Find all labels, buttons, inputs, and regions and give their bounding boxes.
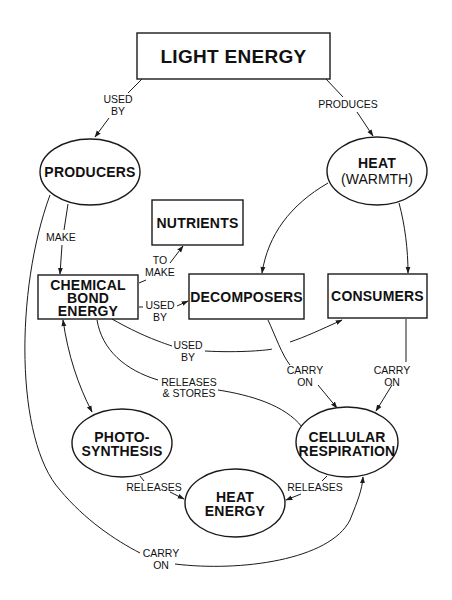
edge-producers-to-cbe bbox=[64, 204, 68, 230]
producers-label: PRODUCERS bbox=[44, 164, 135, 180]
edge-light-to-producers bbox=[128, 79, 142, 93]
node-heat-energy[interactable]: HEAT ENERGY bbox=[185, 469, 285, 537]
concept-map: LIGHT ENERGY PRODUCERS HEAT (WARMTH) NUT… bbox=[0, 0, 452, 600]
cbe-label-3: ENERGY bbox=[58, 303, 119, 319]
heat-energy-label-2: ENERGY bbox=[205, 503, 266, 519]
edge-cbe-to-decomposers-arrow bbox=[177, 301, 188, 306]
edge-cbe-to-consumers bbox=[112, 319, 172, 346]
edge-photo-to-he-arrow bbox=[170, 492, 184, 499]
node-decomposers[interactable]: DECOMPOSERS bbox=[189, 274, 304, 319]
edge-cr-to-he-arrow bbox=[286, 494, 301, 500]
node-producers[interactable]: PRODUCERS bbox=[40, 139, 140, 205]
label-to-make-1: TO bbox=[153, 254, 167, 266]
label-used-by-dec-2: BY bbox=[153, 311, 167, 323]
edge-consumers-to-cr-arrow bbox=[376, 385, 392, 411]
edge-cbe-photosynthesis bbox=[63, 320, 92, 412]
edge-decomposers-to-cr-arrow bbox=[318, 385, 337, 408]
label-carry-on-con-2: ON bbox=[384, 376, 400, 388]
nutrients-label: NUTRIENTS bbox=[157, 215, 239, 231]
node-consumers[interactable]: CONSUMERS bbox=[328, 274, 427, 318]
label-used-by-con-2: BY bbox=[181, 351, 195, 363]
edge-producers-to-cr-outer bbox=[25, 195, 140, 553]
edge-cbe-to-consumers-arrow bbox=[205, 320, 342, 352]
label-used-by-2: BY bbox=[111, 105, 125, 117]
edge-light-to-producers-arrow bbox=[95, 118, 109, 137]
edge-cr-to-cbe-upper bbox=[97, 320, 158, 380]
label-used-by-1: USED bbox=[103, 93, 133, 105]
cr-label-2: RESPIRATION bbox=[299, 443, 396, 459]
heat-warmth-label-2: (WARMTH) bbox=[341, 171, 413, 187]
label-used-by-con-1: USED bbox=[173, 339, 203, 351]
label-carry-on-dec-2: ON bbox=[297, 376, 313, 388]
edge-light-to-heat-arrow bbox=[357, 112, 373, 136]
label-carry-on-dec-1: CARRY bbox=[287, 364, 324, 376]
node-heat-warmth[interactable]: HEAT (WARMTH) bbox=[327, 137, 427, 205]
label-carry-on-bottom-1: CARRY bbox=[143, 547, 180, 559]
edge-cbe-to-nutrients-arrow bbox=[170, 246, 183, 263]
node-light-energy[interactable]: LIGHT ENERGY bbox=[137, 33, 330, 79]
node-cellular-respiration[interactable]: CELLULAR RESPIRATION bbox=[296, 407, 398, 477]
label-releases-cr: RELEASES bbox=[287, 481, 342, 493]
edge-decomposers-to-cr bbox=[268, 320, 290, 365]
label-produces: PRODUCES bbox=[318, 98, 378, 110]
node-chemical-bond-energy[interactable]: CHEMICAL BOND ENERGY bbox=[38, 275, 138, 319]
edge-cr-to-cbe bbox=[218, 390, 302, 427]
edge-producers-to-cbe-arrow bbox=[60, 245, 62, 274]
label-carry-on-bottom-2: ON bbox=[153, 559, 169, 571]
edge-heat-to-consumers bbox=[399, 203, 408, 273]
heat-warmth-label-1: HEAT bbox=[358, 155, 396, 171]
label-carry-on-con-1: CARRY bbox=[374, 364, 411, 376]
consumers-label: CONSUMERS bbox=[331, 288, 424, 304]
node-nutrients[interactable]: NUTRIENTS bbox=[152, 200, 243, 245]
label-to-make-2: MAKE bbox=[145, 266, 175, 278]
label-used-by-dec-1: USED bbox=[145, 299, 175, 311]
label-releases-photo: RELEASES bbox=[126, 481, 181, 493]
light-energy-label: LIGHT ENERGY bbox=[160, 46, 306, 67]
node-photosynthesis[interactable]: PHOTO- SYNTHESIS bbox=[72, 409, 172, 477]
photosynthesis-label-2: SYNTHESIS bbox=[81, 443, 162, 459]
edge-cbe-to-nutrients bbox=[139, 280, 146, 283]
edge-heat-to-decomposers bbox=[262, 183, 328, 273]
label-releases-stores-2: & STORES bbox=[163, 387, 216, 399]
edge-light-to-heat bbox=[326, 79, 343, 97]
label-make: MAKE bbox=[46, 231, 76, 243]
decomposers-label: DECOMPOSERS bbox=[190, 289, 303, 305]
